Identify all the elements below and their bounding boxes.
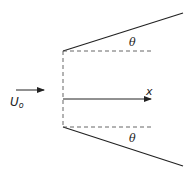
lower-wall: [63, 127, 183, 166]
theta-bottom-label: θ: [129, 132, 136, 145]
theta-top-label: θ: [129, 36, 136, 49]
diverging-channel-diagram: θ θ x Uo: [0, 0, 193, 178]
upper-wall: [63, 13, 183, 51]
velocity-main: U: [10, 95, 19, 109]
velocity-label: Uo: [10, 95, 24, 110]
velocity-subscript: o: [19, 101, 24, 110]
x-axis-label: x: [145, 85, 153, 98]
